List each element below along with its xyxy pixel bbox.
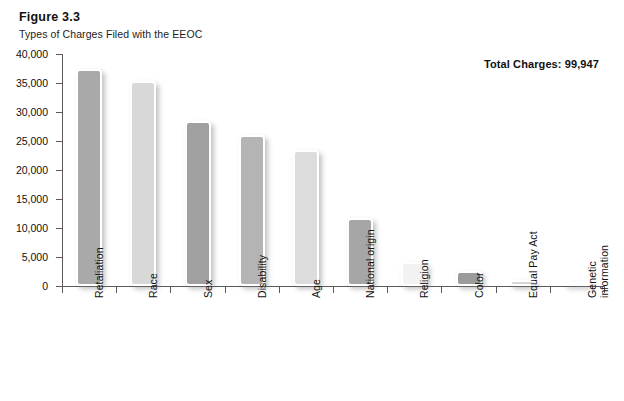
y-axis-tick-label: 15,000 [16,193,48,205]
x-axis-labels: RetaliationRaceSexDisabilityAgeNational … [62,296,604,401]
bar [130,81,156,286]
x-axis-tick [496,287,497,293]
x-axis-tick [333,287,334,293]
x-axis-tick-label: Sex [203,280,215,298]
y-axis-tick-label: 20,000 [16,164,48,176]
x-axis-tick-label: Age [311,279,323,298]
x-axis-tick-label: Retaliation [94,247,106,298]
y-axis-tick-label: 35,000 [16,77,48,89]
figure-container: Figure 3.3 Types of Charges Filed with t… [0,0,624,401]
y-axis-tick [56,228,62,229]
x-axis-tick [62,287,63,293]
y-axis-tick [56,83,62,84]
y-axis-labels: 40,00035,00030,00025,00020,00015,00010,0… [0,54,56,287]
x-axis-tick [225,287,226,293]
figure-title: Types of Charges Filed with the EEOC [19,28,202,40]
y-axis-tick-label: 25,000 [16,135,48,147]
y-axis-tick [56,257,62,258]
x-axis-tick-label: Religion [419,259,431,298]
bar [293,150,319,286]
x-axis-tick [441,287,442,293]
x-axis-tick [170,287,171,293]
y-axis-tick [56,112,62,113]
y-axis-tick-label: 5,000 [22,251,48,263]
x-axis-tick-label: National origin [365,229,377,298]
y-axis-tick-label: 30,000 [16,106,48,118]
x-axis-tick [116,287,117,293]
y-axis-tick [56,141,62,142]
bar [185,121,211,286]
x-axis-tick-label: Disability [257,255,269,298]
y-axis-tick [56,54,62,55]
y-axis-tick-label: 40,000 [16,48,48,60]
x-axis-tick [279,287,280,293]
y-axis-tick [56,199,62,200]
y-axis-line [62,54,63,287]
figure-number: Figure 3.3 [19,10,80,24]
y-axis-tick [56,170,62,171]
x-axis-tick [550,287,551,293]
x-axis-tick [387,287,388,293]
x-axis-tick-label: Equal Pay Act [528,231,540,298]
x-axis-tick-label: Color [474,272,486,298]
y-axis-tick-label: 10,000 [16,222,48,234]
x-axis-tick-label: Race [148,273,160,298]
plot-area [62,54,604,286]
x-axis-tick-label: Genetic information [587,245,610,298]
y-axis-tick-label: 0 [42,280,48,292]
